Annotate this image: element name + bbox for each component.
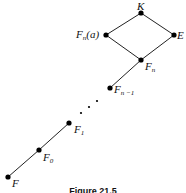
ellipsis-dot xyxy=(80,112,82,114)
node-Fna xyxy=(103,32,108,37)
node-Fn xyxy=(138,57,143,62)
node-F1 xyxy=(66,120,71,125)
figure-caption: Figure 21.5 xyxy=(0,186,186,193)
ellipsis-dot xyxy=(96,100,98,102)
edge-F1-F0 xyxy=(39,123,69,150)
node-label-Fn1: Fn −1 xyxy=(114,84,134,95)
edge-K-Fna xyxy=(106,13,141,35)
edge-E-Fn xyxy=(141,35,174,60)
edge-Fna-Fn xyxy=(106,35,141,60)
node-label-Fn: Fn xyxy=(145,61,155,72)
ellipsis-dot xyxy=(88,106,90,108)
node-Fn1 xyxy=(107,85,112,90)
node-label-Fna: Fn(a) xyxy=(76,29,99,40)
node-E xyxy=(171,32,176,37)
node-F xyxy=(5,174,10,179)
node-label-F0: F0 xyxy=(43,152,53,163)
node-label-E: E xyxy=(177,30,184,41)
node-F0 xyxy=(36,147,41,152)
node-label-K: K xyxy=(137,1,144,12)
edge-F0-F xyxy=(8,150,39,177)
node-label-F1: F1 xyxy=(74,124,84,135)
edge-K-E xyxy=(141,13,174,35)
